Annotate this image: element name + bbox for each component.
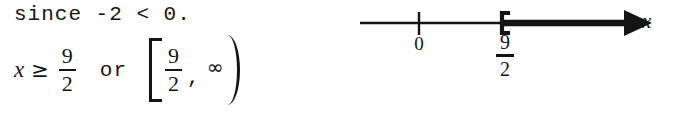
variable-x: x (14, 57, 31, 83)
number-line-panel: 0 9 2 x (340, 0, 673, 113)
axis-label-x: x (642, 9, 651, 34)
interval-lower-fraction: 9 2 (165, 45, 182, 95)
tick-label-nine-halves: 9 2 (492, 32, 518, 80)
solution-fraction: 9 2 (59, 45, 76, 95)
interval-right-paren-icon (228, 35, 244, 105)
fraction-bar (496, 54, 514, 57)
fraction-denominator: 2 (166, 73, 181, 95)
fraction-numerator: 9 (500, 32, 510, 53)
tick-label-zero: 0 (408, 33, 430, 55)
fraction-numerator: 9 (166, 45, 181, 67)
algebra-work-panel: since -2 < 0. x ≥ 9 2 or 9 2 , ∞ (0, 0, 340, 113)
interval-left-bracket-icon (149, 38, 162, 102)
solution-line: x ≥ 9 2 or 9 2 , ∞ (14, 42, 244, 98)
greater-than-or-equal-icon: ≥ (31, 58, 59, 82)
interval-separator: , (182, 52, 204, 89)
fraction-denominator: 2 (60, 73, 75, 95)
reason-line: since -2 < 0. (14, 2, 191, 28)
fraction-numerator: 9 (60, 45, 75, 67)
interval-notation: 9 2 , ∞ (149, 33, 244, 107)
connector-or: or (76, 59, 149, 82)
worksheet-canvas: since -2 < 0. x ≥ 9 2 or 9 2 , ∞ (0, 0, 673, 113)
fraction-denominator: 2 (500, 59, 510, 80)
